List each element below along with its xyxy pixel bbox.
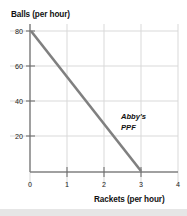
x-axis-title: Rackets (per hour) — [94, 195, 165, 204]
ppf-annotation-line2: PPF — [121, 123, 146, 134]
chart-figure: Balls (per hour) Rackets (per hour) 80 6… — [0, 0, 187, 216]
x-tick-label-3: 3 — [134, 180, 148, 189]
y-tick-label-20: 20 — [7, 132, 23, 141]
x-tick-label-1: 1 — [60, 180, 74, 189]
y-tick-label-80: 80 — [7, 27, 23, 36]
y-tick-label-40: 40 — [7, 97, 23, 106]
x-tick-label-2: 2 — [97, 180, 111, 189]
y-axis-title: Balls (per hour) — [11, 10, 70, 19]
grid-vertical — [30, 24, 178, 186]
x-tick-label-0: 0 — [23, 180, 37, 189]
ppf-annotation-line1: Abby's — [121, 112, 146, 123]
x-tick-label-4: 4 — [171, 180, 185, 189]
ppf-annotation: Abby's PPF — [121, 112, 146, 133]
bottom-border-strip — [0, 209, 187, 216]
grid-horizontal — [10, 31, 178, 136]
y-tick-label-60: 60 — [7, 62, 23, 71]
